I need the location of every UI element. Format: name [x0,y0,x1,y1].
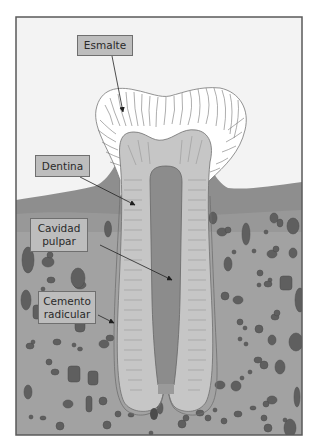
label-dentina: Dentina [35,155,90,177]
label-dentina-text: Dentina [42,160,83,173]
label-esmalte-text: Esmalte [84,39,126,52]
label-esmalte: Esmalte [77,35,133,56]
label-cavidad-pulpar: Cavidad pulpar [30,218,88,252]
label-cemento-radicular-line1: Cemento [43,295,91,308]
label-cemento-radicular: Cemento radicular [38,291,96,324]
tooth-diagram: Esmalte Dentina Cavidad pulpar Cemento r… [0,0,315,448]
pulp-canal [158,384,174,394]
label-cavidad-pulpar-line2: pulpar [42,235,76,248]
label-cemento-radicular-line2: radicular [44,308,90,321]
label-cavidad-pulpar-line1: Cavidad [38,222,81,235]
pulp-cavity [150,166,182,385]
